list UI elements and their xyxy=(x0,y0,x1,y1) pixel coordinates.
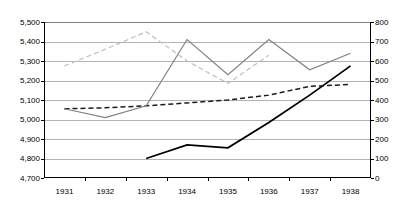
x-axis-tick-mark xyxy=(289,178,290,181)
x-axis-tick-mark xyxy=(248,178,249,181)
x-axis-tick-label: 1932 xyxy=(85,187,125,196)
y-axis-right-tick-mark xyxy=(371,159,374,160)
x-axis-tick-label: 1934 xyxy=(167,187,207,196)
x-axis-tick-label: 1933 xyxy=(126,187,166,196)
y-axis-right-tick-label: 400 xyxy=(375,96,417,105)
y-axis-left-tick-label: 5,400 xyxy=(0,37,40,46)
series-line xyxy=(64,32,268,84)
y-axis-right-tick-mark xyxy=(371,22,374,23)
y-axis-left: 4,7004,8004,9005,0005,1005,2005,3005,400… xyxy=(0,0,40,214)
x-axis-tick-label: 1936 xyxy=(249,187,289,196)
y-axis-left-tick-mark xyxy=(41,22,44,23)
y-axis-left-tick-label: 5,100 xyxy=(0,96,40,105)
x-axis-tick-mark xyxy=(208,178,209,181)
y-axis-right-tick-label: 800 xyxy=(375,18,417,27)
y-axis-right-tick-mark xyxy=(371,178,374,179)
x-axis-tick-label: 1931 xyxy=(44,187,84,196)
y-axis-left-tick-mark xyxy=(41,61,44,62)
y-axis-left-tick-label: 5,000 xyxy=(0,115,40,124)
y-axis-right-tick-label: 0 xyxy=(375,174,417,183)
line-chart: 4,7004,8004,9005,0005,1005,2005,3005,400… xyxy=(0,0,420,214)
y-axis-left-tick-label: 4,800 xyxy=(0,154,40,163)
y-axis-right-tick-label: 700 xyxy=(375,37,417,46)
y-axis-right-tick-mark xyxy=(371,139,374,140)
x-axis-tick-mark xyxy=(330,178,331,181)
y-axis-right-tick-mark xyxy=(371,100,374,101)
y-axis-right-tick-label: 600 xyxy=(375,57,417,66)
y-axis-right-tick-label: 200 xyxy=(375,135,417,144)
x-axis-tick-label: 1938 xyxy=(331,187,371,196)
series-line xyxy=(64,40,350,118)
x-axis-tick-label: 1937 xyxy=(290,187,330,196)
data-series-layer xyxy=(44,22,371,178)
y-axis-left-tick-mark xyxy=(41,100,44,101)
y-axis-left-tick-mark xyxy=(41,120,44,121)
series-line xyxy=(146,66,350,159)
y-axis-right-tick-mark xyxy=(371,61,374,62)
y-axis-left-tick-label: 5,200 xyxy=(0,76,40,85)
y-axis-left-tick-mark xyxy=(41,42,44,43)
y-axis-left-tick-mark xyxy=(41,159,44,160)
y-axis-right: 0100200300400500600700800 xyxy=(375,0,420,214)
y-axis-left-tick-mark xyxy=(41,81,44,82)
y-axis-right-tick-mark xyxy=(371,81,374,82)
x-axis: 19311932193319341935193619371938 xyxy=(0,187,420,201)
y-axis-right-tick-label: 100 xyxy=(375,154,417,163)
y-axis-right-tick-label: 300 xyxy=(375,115,417,124)
y-axis-left-tick-label: 5,500 xyxy=(0,18,40,27)
y-axis-left-tick-mark xyxy=(41,178,44,179)
x-axis-tick-mark xyxy=(126,178,127,181)
x-axis-tick-label: 1935 xyxy=(208,187,248,196)
y-axis-left-tick-label: 4,700 xyxy=(0,174,40,183)
y-axis-right-tick-mark xyxy=(371,42,374,43)
y-axis-left-tick-label: 4,900 xyxy=(0,135,40,144)
y-axis-right-tick-mark xyxy=(371,120,374,121)
y-axis-left-tick-mark xyxy=(41,139,44,140)
y-axis-right-tick-label: 500 xyxy=(375,76,417,85)
x-axis-tick-mark xyxy=(85,178,86,181)
y-axis-left-tick-label: 5,300 xyxy=(0,57,40,66)
x-axis-tick-mark xyxy=(167,178,168,181)
